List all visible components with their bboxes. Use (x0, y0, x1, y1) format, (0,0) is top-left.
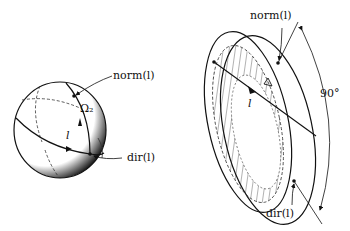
label-line-left: l (66, 130, 70, 141)
label-norm-left: norm(l) (113, 70, 155, 81)
sphere (14, 76, 122, 178)
label-norm-right: norm(l) (250, 10, 292, 21)
label-omega: Ω₂ (80, 103, 94, 114)
label-line-right: l (248, 98, 252, 109)
label-angle: 90° (320, 88, 340, 99)
diagram-canvas (0, 0, 350, 231)
disk-pair (190, 22, 331, 231)
label-dir-right: dir(l) (266, 208, 294, 219)
label-dir-left: dir(l) (127, 152, 155, 163)
